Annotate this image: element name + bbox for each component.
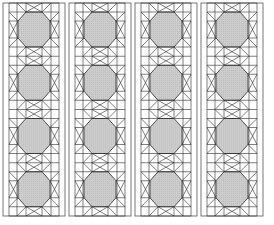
quilt-strip-4 [201, 3, 263, 216]
quilt-pattern-figure [0, 0, 274, 225]
quilt-strip-3 [135, 3, 197, 216]
quilt-strip-2 [69, 3, 131, 216]
quilt-strip-1 [3, 3, 65, 216]
